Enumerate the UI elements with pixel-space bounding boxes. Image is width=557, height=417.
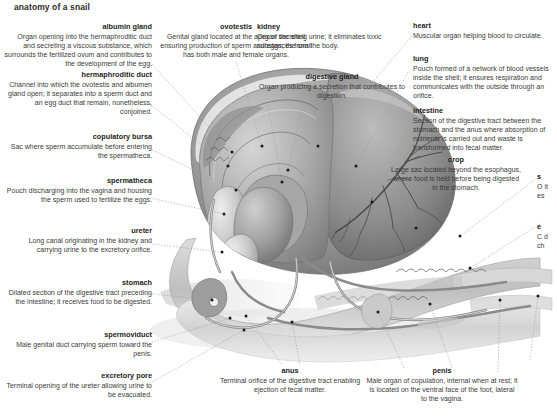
label-description: Terminal opening of the ureter allowing … — [4, 381, 152, 399]
label-stomach: stomach Dilated section of the digestive… — [4, 278, 152, 306]
label-description: Male organ of copulation, internal when … — [366, 376, 518, 403]
label-description: Muscular organ helping blood to circulat… — [413, 31, 555, 40]
label-spermatheca: spermatheca Pouch discharging into the v… — [4, 176, 152, 204]
label-term: hermaphroditic duct — [4, 70, 152, 80]
label-description: Pouch discharging into the vagina and ho… — [4, 186, 152, 204]
label-term: spermatheca — [4, 176, 152, 186]
label-description: Sac where sperm accumulate before enteri… — [4, 142, 152, 160]
label-description: Terminal orifice of the digestive tract … — [215, 376, 365, 394]
label-term: penis — [366, 366, 518, 376]
label-term: digestive gland — [256, 72, 408, 82]
page-title: anatomy of a snail — [14, 2, 90, 12]
label-term: copulatory bursa — [4, 132, 152, 142]
label-term: s — [537, 172, 557, 182]
label-description: Large sac located beyond the esophagus, … — [390, 165, 522, 192]
anatomy-diagram: anatomy of a snail albumin gland Organ o… — [0, 0, 557, 417]
label-description: Organ producing a secretion that contrib… — [256, 82, 408, 100]
label-term: excretory pore — [4, 371, 152, 381]
label-description: Section of the digestive tract between t… — [413, 116, 557, 152]
label-term: stomach — [4, 278, 152, 288]
label-lung: lung Pouch formed of a network of blood … — [413, 54, 555, 100]
label-heart: heart Muscular organ helping blood to ci… — [413, 21, 555, 40]
label-description: Organ opening into the hermaphroditic du… — [4, 32, 152, 68]
label-description: C d ch — [537, 232, 557, 250]
label-term: intestine — [413, 106, 557, 116]
label-term: lung — [413, 54, 555, 64]
label-term: albumin gland — [4, 22, 152, 32]
label-albumin-gland: albumin gland Organ opening into the her… — [4, 22, 152, 68]
label-term: crop — [390, 155, 522, 165]
label-description: Male genital duct carrying sperm toward … — [4, 340, 152, 358]
label-description: Pouch formed of a network of blood vesse… — [413, 64, 555, 100]
label-kidney: kidney Organ secreting urine; it elimina… — [257, 22, 407, 50]
label-clipped-right-upper: s O it es — [537, 172, 557, 200]
label-copulatory-bursa: copulatory bursa Sac where sperm accumul… — [4, 132, 152, 160]
label-spermoviduct: spermoviduct Male genital duct carrying … — [4, 330, 152, 358]
label-ureter: ureter Long canal originating in the kid… — [4, 226, 152, 254]
label-clipped-right-lower: e C d ch — [537, 222, 557, 250]
label-penis: penis Male organ of copulation, internal… — [366, 366, 518, 403]
label-anus: anus Terminal orifice of the digestive t… — [215, 366, 365, 394]
label-hermaphroditic-duct: hermaphroditic duct Channel into which t… — [4, 70, 152, 116]
label-term: ureter — [4, 226, 152, 236]
label-description: O it es — [537, 182, 557, 200]
label-description: Long canal originating in the kidney and… — [4, 236, 152, 254]
label-term: e — [537, 222, 557, 232]
label-intestine: intestine Section of the digestive tract… — [413, 106, 557, 152]
label-term: anus — [215, 366, 365, 376]
label-excretory-pore: excretory pore Terminal opening of the u… — [4, 371, 152, 399]
label-digestive-gland: digestive gland Organ producing a secret… — [256, 72, 408, 100]
label-description: Dilated section of the digestive tract p… — [4, 288, 152, 306]
label-term: spermoviduct — [4, 330, 152, 340]
label-description: Organ secreting urine; it eliminates tox… — [257, 32, 407, 50]
label-description: Channel into which the ovotestis and alb… — [4, 80, 152, 116]
label-term: heart — [413, 21, 555, 31]
label-term: kidney — [257, 22, 407, 32]
label-crop: crop Large sac located beyond the esopha… — [390, 155, 522, 192]
